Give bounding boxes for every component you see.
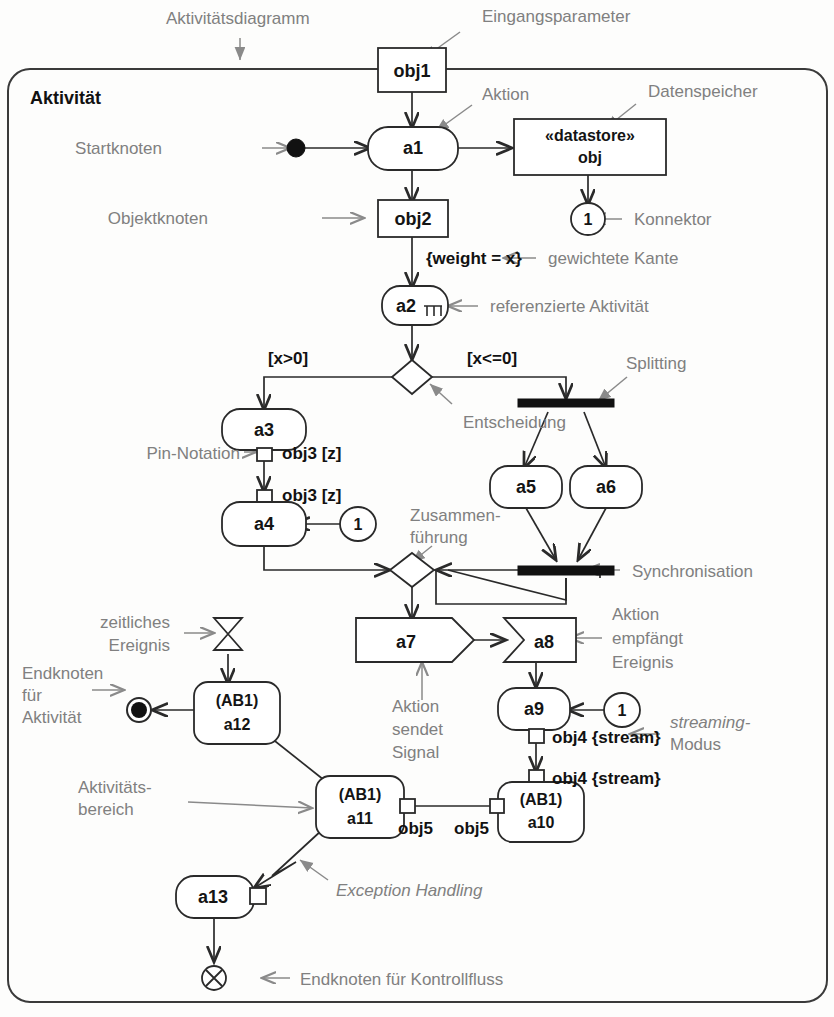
node-a12-label: a12 — [224, 716, 251, 733]
node-a6-label: a6 — [596, 477, 616, 497]
initial-node — [287, 139, 305, 157]
guard-right-label: [x<=0] — [467, 349, 517, 368]
datastore-stereotype: «datastore» — [545, 127, 635, 144]
annotation-synchronisation: Synchronisation — [632, 562, 753, 581]
annotation-aktivitaetsbereich-line1: Aktivitäts- — [78, 778, 152, 797]
annotation-endknoten-akt-line2: für — [22, 686, 42, 705]
activity-final-node — [127, 698, 151, 722]
pin-obj5-left-label: obj5 — [398, 819, 433, 838]
node-a4-label: a4 — [254, 514, 274, 534]
annotation-konnektor: Konnektor — [634, 210, 712, 229]
pin-a3-output — [257, 448, 272, 461]
weight-edge-label: {weight = x} — [426, 249, 522, 268]
node-a10-region-label: (AB1) — [520, 791, 563, 808]
uml-activity-diagram: obj1 a1 «datastore» obj 1 obj2 a2 a3 a4 … — [0, 0, 834, 1017]
pin-a10-output-obj5 — [490, 799, 504, 813]
annotation-aktion-empfaengt-line1: Aktion — [612, 605, 659, 624]
connector-node-a4-label: 1 — [354, 516, 363, 533]
annotation-streaming-line2: Modus — [670, 735, 721, 754]
annotation-aktion-sendet-line1: Aktion — [392, 697, 439, 716]
flow-final-node — [202, 966, 226, 990]
annotation-objektknoten: Objektknoten — [108, 209, 208, 228]
annotation-endknoten-akt-line1: Endknoten — [22, 664, 103, 683]
annotation-eingangsparameter: Eingangsparameter — [482, 7, 631, 26]
annotation-zeitliches-line1: zeitliches — [100, 613, 170, 632]
annotation-aktivitaetsdiagramm: Aktivitätsdiagramm — [166, 9, 310, 28]
node-a7-label: a7 — [396, 632, 416, 652]
node-obj1-label: obj1 — [393, 61, 430, 81]
annotation-streaming-line1: streaming- — [670, 713, 751, 732]
annotation-entscheidung: Entscheidung — [463, 413, 566, 432]
diagram-canvas: obj1 a1 «datastore» obj 1 obj2 a2 a3 a4 … — [0, 0, 834, 1017]
annotation-aktion-empfaengt-line2: empfängt — [612, 629, 683, 648]
node-a11-label: a11 — [347, 810, 373, 827]
time-event-icon — [214, 618, 242, 650]
node-a11-region-label: (AB1) — [339, 786, 382, 803]
merge-node — [390, 553, 434, 587]
annotation-zusammenfuehrung-line1: Zusammen- — [410, 506, 501, 525]
pin-obj4-out-label: obj4 {stream} — [552, 728, 661, 747]
pin-label-out-obj3: obj3 [z] — [282, 444, 342, 463]
annotation-zeitliches-line2: Ereignis — [109, 636, 170, 655]
pin-obj5-right-label: obj5 — [454, 819, 489, 838]
node-a9-label: a9 — [524, 699, 544, 719]
annotation-exception-handling: Exception Handling — [336, 881, 483, 900]
annotation-aktion-empfaengt-line3: Ereignis — [612, 653, 673, 672]
annotation-referenzierte-aktivitaet: referenzierte Aktivität — [490, 297, 649, 316]
annotation-endknoten-kontrollfluss: Endknoten für Kontrollfluss — [300, 970, 503, 989]
annotation-datenspeicher: Datenspeicher — [648, 82, 758, 101]
node-a12-region-label: (AB1) — [216, 692, 259, 709]
pin-a13-exception — [250, 888, 266, 904]
node-a8-label: a8 — [534, 632, 554, 652]
annotation-splitting: Splitting — [626, 354, 686, 373]
node-a13-label: a13 — [198, 887, 228, 907]
datastore-name: obj — [578, 149, 602, 166]
pin-obj4-in-label: obj4 {stream} — [552, 769, 661, 788]
sync-bar — [518, 566, 614, 575]
annotation-aktion: Aktion — [482, 85, 529, 104]
connector-node-a9-label: 1 — [618, 702, 627, 719]
fork-bar — [518, 399, 614, 407]
node-a10-label: a10 — [528, 814, 555, 831]
node-a5-label: a5 — [516, 477, 536, 497]
annotation-pin-notation: Pin-Notation — [146, 444, 240, 463]
annotation-startknoten: Startknoten — [75, 139, 162, 158]
node-a3-label: a3 — [254, 420, 274, 440]
guard-left-label: [x>0] — [268, 349, 308, 368]
annotation-aktion-sendet-line3: Signal — [392, 743, 439, 762]
pin-a9-output — [529, 729, 544, 743]
annotation-aktion-sendet-line2: sendet — [392, 720, 443, 739]
pin-a11-input-obj5 — [400, 799, 415, 813]
connector-node-1-label: 1 — [584, 211, 593, 228]
node-a2-label: a2 — [396, 296, 416, 316]
node-a1-label: a1 — [403, 138, 423, 158]
decision-node — [392, 360, 432, 394]
node-obj2-label: obj2 — [394, 209, 431, 229]
annotation-endknoten-akt-line3: Aktivität — [22, 708, 82, 727]
pin-label-in-obj3: obj3 [z] — [282, 486, 342, 505]
frame-label: Aktivität — [30, 88, 101, 108]
annotation-aktivitaetsbereich-line2: bereich — [78, 800, 134, 819]
pin-a4-input — [257, 490, 272, 503]
annotation-zusammenfuehrung-line2: führung — [410, 528, 468, 547]
annotation-gewichtete-kante: gewichtete Kante — [548, 249, 678, 268]
